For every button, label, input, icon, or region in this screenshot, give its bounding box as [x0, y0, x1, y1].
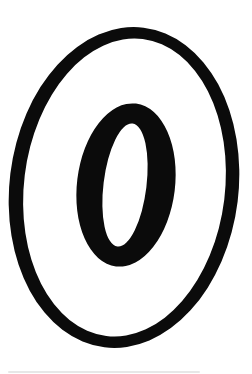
- zero-in-oval-graphic: [0, 0, 252, 374]
- zero-in-oval-svg: [0, 0, 252, 374]
- bottom-scan-artifact: [8, 371, 200, 373]
